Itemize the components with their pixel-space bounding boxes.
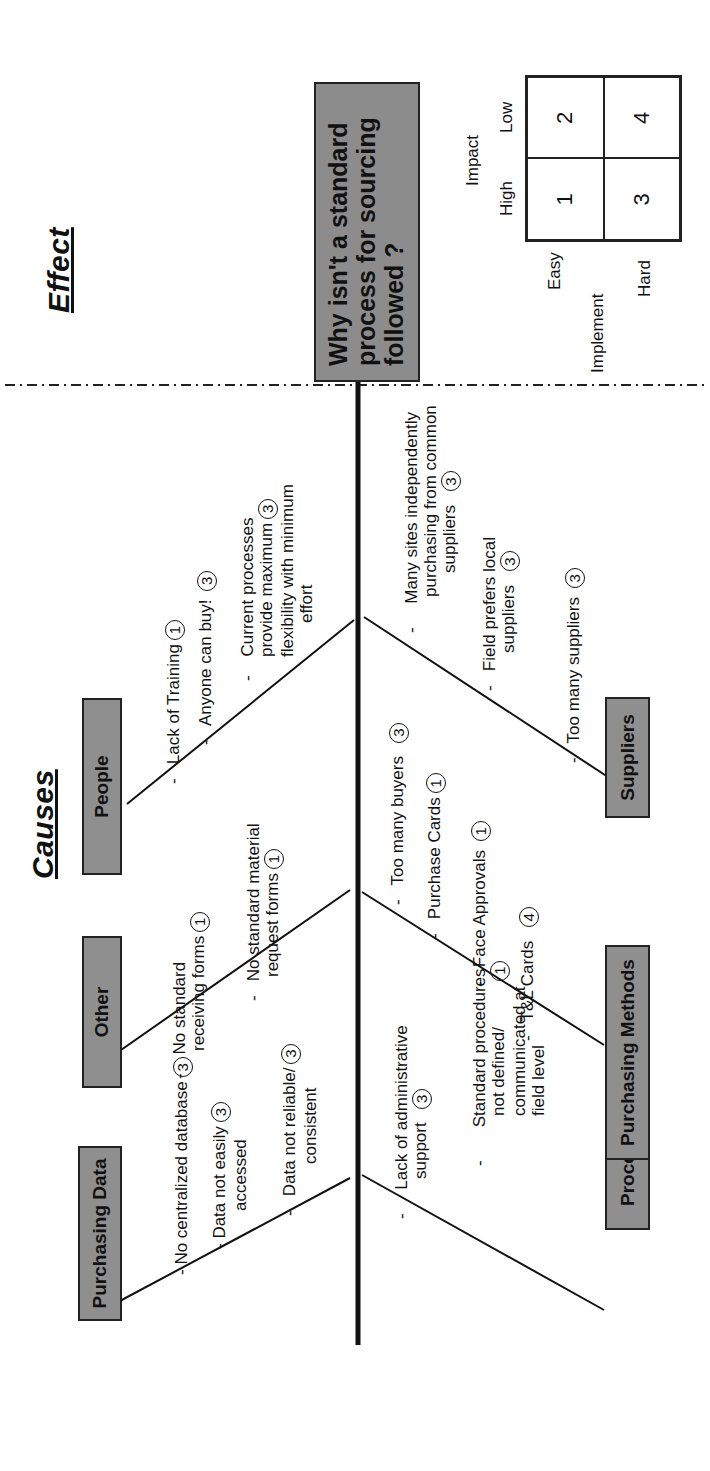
cause-item: - No standard material request forms1 bbox=[244, 823, 284, 1001]
priority-matrix-grid: 1 2 3 4 bbox=[525, 75, 682, 242]
cause-item: - Field prefers local suppliers 3 bbox=[480, 537, 520, 691]
rating-badge: 1 bbox=[264, 849, 284, 869]
rating-badge: 1 bbox=[490, 961, 510, 981]
matrix-cell: 3 bbox=[604, 159, 681, 241]
matrix-cell: 1 bbox=[527, 159, 604, 241]
category-label: Purchasing Data bbox=[89, 1159, 111, 1309]
matrix-cell: 4 bbox=[604, 77, 681, 159]
cause-item: - No standard receiving forms1 bbox=[170, 912, 210, 1079]
cause-item: - Anyone can buy! 3 bbox=[196, 571, 217, 745]
implement-axis-label: Implement bbox=[588, 294, 608, 373]
cause-item: - Purchase Cards1 bbox=[425, 773, 446, 939]
rating-badge: 3 bbox=[441, 472, 461, 492]
cause-item: - Lack of Training1 bbox=[164, 620, 185, 784]
rating-badge: 1 bbox=[426, 773, 446, 793]
cause-item: - Data not reliable/3 consistent bbox=[280, 1044, 320, 1216]
rating-badge: 1 bbox=[471, 821, 491, 841]
effect-line: followed ? bbox=[380, 98, 408, 366]
category-people: People bbox=[82, 698, 122, 875]
rating-badge: 3 bbox=[565, 568, 585, 588]
rating-badge: 3 bbox=[281, 1044, 301, 1064]
causes-title: Causes bbox=[26, 769, 60, 879]
rating-badge: 3 bbox=[412, 1089, 432, 1109]
impact-axis-label: Impact bbox=[463, 135, 483, 186]
category-suppliers: Suppliers bbox=[605, 697, 650, 818]
implement-easy-label: Easy bbox=[545, 252, 565, 290]
rating-badge: 4 bbox=[519, 907, 539, 927]
category-purchasing-data: Purchasing Data bbox=[78, 1146, 122, 1321]
cause-item: - Current processes provide maximum3 fle… bbox=[238, 484, 316, 681]
category-label: People bbox=[91, 755, 113, 817]
rating-badge: 3 bbox=[500, 552, 520, 572]
effect-title: Effect bbox=[42, 227, 76, 313]
rating-badge: 3 bbox=[258, 499, 278, 519]
cause-item: - No centralized database3 bbox=[172, 1057, 193, 1275]
category-label: Other bbox=[91, 987, 113, 1038]
effect-line: process for sourcing bbox=[352, 98, 380, 366]
matrix-cell: 2 bbox=[527, 77, 604, 159]
rating-badge: 3 bbox=[211, 1102, 231, 1122]
rating-badge: 3 bbox=[389, 723, 409, 743]
rating-badge: 1 bbox=[190, 912, 210, 932]
impact-high-label: High bbox=[497, 181, 517, 216]
effect-line: Why isn't a standard bbox=[324, 98, 352, 366]
impact-low-label: Low bbox=[497, 102, 517, 133]
category-label: Suppliers bbox=[617, 714, 639, 801]
cause-item: - Too many suppliers 3 bbox=[564, 568, 585, 763]
category-purchasing-methods: Purchasing Methods bbox=[605, 945, 650, 1160]
effect-problem-box: Why isn't a standard process for sourcin… bbox=[314, 82, 420, 382]
implement-hard-label: Hard bbox=[635, 260, 655, 297]
cause-item: - T&L Cards 4 bbox=[518, 907, 539, 1041]
cause-item: - Many sites independently purchasing fr… bbox=[402, 405, 461, 633]
category-other: Other bbox=[82, 936, 122, 1088]
category-label: Purchasing Methods bbox=[617, 959, 639, 1146]
cause-item: - Face Approvals 1 bbox=[470, 821, 491, 987]
cause-item: - Data not easily3 accessed bbox=[210, 1102, 250, 1249]
bone-other bbox=[121, 890, 350, 1050]
rating-badge: 1 bbox=[165, 620, 185, 640]
cause-item: - Lack of administrative support 3 bbox=[392, 1025, 432, 1219]
cause-item: - Too many buyers 3 bbox=[388, 723, 409, 905]
rating-badge: 3 bbox=[197, 571, 217, 591]
fishbone-diagram: Causes Effect Purchasing Data Other Peop… bbox=[0, 0, 710, 1471]
